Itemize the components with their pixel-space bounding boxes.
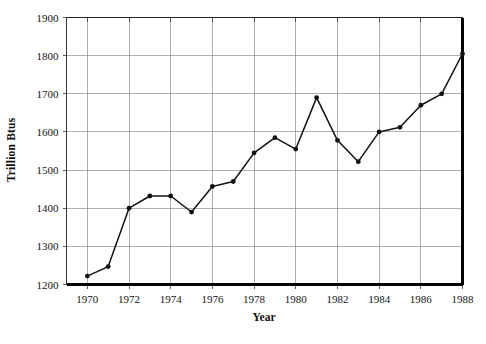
data-point bbox=[168, 194, 173, 199]
line-chart-svg: 12001300140015001600170018001900 1970197… bbox=[0, 0, 486, 344]
y-tick-label: 1800 bbox=[37, 50, 60, 62]
y-tick-label: 1400 bbox=[37, 202, 60, 214]
data-point bbox=[335, 138, 340, 143]
x-tick-label: 1978 bbox=[243, 293, 266, 305]
data-point bbox=[273, 135, 278, 140]
data-point bbox=[252, 151, 257, 156]
x-axis-tickmarks bbox=[87, 18, 462, 289]
y-tick-label: 1600 bbox=[37, 126, 60, 138]
y-axis-tickmarks bbox=[63, 18, 67, 285]
y-axis-tick-labels: 12001300140015001600170018001900 bbox=[37, 12, 60, 291]
data-point bbox=[377, 130, 382, 135]
data-point bbox=[439, 91, 444, 96]
data-point bbox=[356, 159, 361, 164]
y-tick-label: 1200 bbox=[37, 279, 60, 291]
data-point bbox=[418, 103, 423, 108]
y-tick-label: 1300 bbox=[37, 240, 60, 252]
chart-figure: Trillion Btus Year 120013001400150016001… bbox=[0, 0, 486, 344]
x-tick-label: 1982 bbox=[326, 293, 348, 305]
x-tick-label: 1970 bbox=[76, 293, 99, 305]
x-tick-label: 1976 bbox=[201, 293, 224, 305]
data-point bbox=[127, 206, 132, 211]
data-point bbox=[189, 210, 194, 215]
data-point bbox=[314, 95, 319, 100]
data-point bbox=[293, 147, 298, 152]
y-tick-label: 1700 bbox=[37, 88, 60, 100]
y-tick-label: 1500 bbox=[37, 164, 60, 176]
x-tick-label: 1988 bbox=[452, 293, 475, 305]
axis-lines bbox=[67, 18, 463, 285]
x-axis-tick-labels: 1970197219741976197819801982198419861988 bbox=[76, 293, 474, 305]
data-point bbox=[398, 125, 403, 130]
y-tick-label: 1900 bbox=[37, 12, 60, 24]
data-point bbox=[85, 274, 90, 279]
data-point bbox=[231, 179, 236, 184]
x-tick-label: 1980 bbox=[285, 293, 308, 305]
data-point bbox=[106, 264, 111, 269]
x-tick-label: 1974 bbox=[160, 293, 183, 305]
data-point bbox=[147, 194, 152, 199]
data-series bbox=[85, 51, 465, 278]
plot-area: 12001300140015001600170018001900 1970197… bbox=[0, 0, 486, 344]
data-point bbox=[210, 184, 215, 189]
x-tick-label: 1986 bbox=[410, 293, 433, 305]
x-tick-label: 1972 bbox=[118, 293, 140, 305]
data-point bbox=[460, 51, 465, 56]
x-tick-label: 1984 bbox=[368, 293, 391, 305]
series-line bbox=[87, 54, 462, 276]
horizontal-gridlines bbox=[67, 18, 463, 247]
